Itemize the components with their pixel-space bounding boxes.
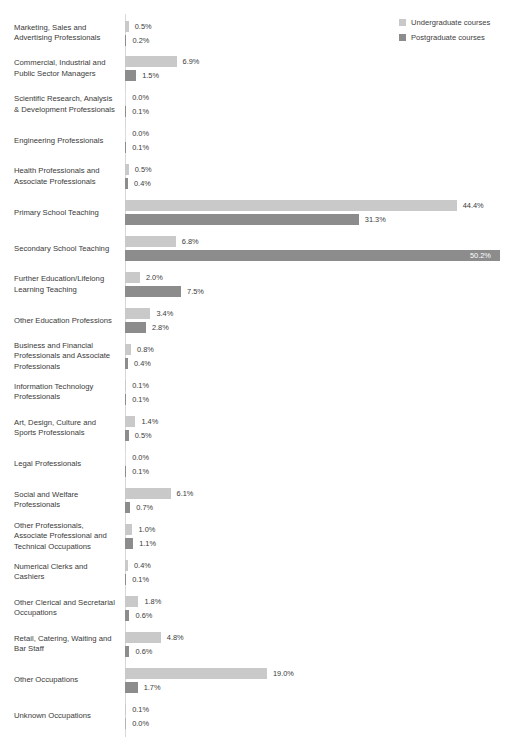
category-label: Engineering Professionals (14, 136, 118, 146)
bar-rect-undergraduate (125, 380, 126, 391)
bar-value-label: 7.5% (187, 287, 204, 296)
bar-rect-postgraduate (125, 466, 126, 477)
bar-value-label: 0.1% (132, 575, 149, 584)
bar-value-label: 0.0% (132, 453, 149, 462)
occupation-destinations-bar-chart: Marketing, Sales and Advertising Profess… (0, 0, 508, 749)
category-label: Other Education Professions (14, 316, 118, 326)
bar-rect-undergraduate (125, 488, 171, 499)
bar-value-label: 0.2% (132, 36, 149, 45)
bar-value-label: 1.4% (141, 417, 158, 426)
bar-value-label: 0.4% (134, 561, 151, 570)
bar-value-label: 0.0% (132, 719, 149, 728)
bar-row: Primary School Teaching44.4%31.3% (0, 199, 508, 227)
bar-rect-undergraduate (125, 524, 132, 535)
bar-value-label: 1.8% (144, 597, 161, 606)
bar-value-label: 0.1% (132, 467, 149, 476)
bar-rect-undergraduate (125, 92, 126, 103)
category-label: Other Clerical and Secretarial Occupatio… (14, 598, 118, 619)
bar-value-label: 0.6% (135, 647, 152, 656)
bar-value-label: 1.1% (139, 539, 156, 548)
bar-value-label: 0.1% (132, 705, 149, 714)
bar-rect-undergraduate (125, 704, 126, 715)
bar-value-label: 0.6% (135, 611, 152, 620)
bar-row: Retail, Catering, Waiting and Bar Staff4… (0, 630, 508, 658)
bar-value-label: 0.0% (132, 93, 149, 102)
bar-value-label: 31.3% (365, 215, 386, 224)
category-label: Other Occupations (14, 675, 118, 685)
bar-rect-undergraduate (125, 668, 267, 679)
bar-value-label: 6.8% (182, 237, 199, 246)
bar-value-label: 0.1% (132, 143, 149, 152)
legend-item-undergraduate: Undergraduate courses (399, 16, 490, 29)
bar-value-label: 0.1% (132, 395, 149, 404)
bar-row: Information Technology Professionals0.1%… (0, 379, 508, 407)
bar-rect-undergraduate (125, 344, 131, 355)
chart-legend: Undergraduate courses Postgraduate cours… (399, 16, 490, 46)
bar-rect-postgraduate (125, 214, 359, 225)
category-label: Marketing, Sales and Advertising Profess… (14, 23, 118, 44)
legend-label-undergraduate: Undergraduate courses (411, 19, 490, 27)
category-label: Legal Professionals (14, 459, 118, 469)
category-label: Secondary School Teaching (14, 244, 118, 254)
bar-row: Other Professionals, Associate Professio… (0, 522, 508, 550)
bar-row: Scientific Research, Analysis & Developm… (0, 91, 508, 119)
category-label: Further Education/Lifelong Learning Teac… (14, 274, 118, 295)
legend-swatch-undergraduate-icon (399, 19, 406, 26)
bar-value-label: 0.4% (134, 179, 151, 188)
category-label: Art, Design, Culture and Sports Professi… (14, 418, 118, 439)
category-label: Unknown Occupations (14, 711, 118, 721)
bar-value-label: 0.7% (136, 503, 153, 512)
bar-rect-undergraduate (125, 416, 135, 427)
legend-swatch-postgraduate-icon (399, 34, 406, 41)
bar-row: Social and Welfare Professionals6.1%0.7% (0, 486, 508, 514)
bar-value-label: 0.5% (135, 431, 152, 440)
bar-value-label: 0.1% (132, 381, 149, 390)
category-label: Other Professionals, Associate Professio… (14, 521, 118, 552)
bar-rect-undergraduate (125, 56, 177, 67)
bar-rect-postgraduate (125, 178, 128, 189)
plot-area: Marketing, Sales and Advertising Profess… (0, 0, 508, 749)
bar-value-label: 0.0% (132, 129, 149, 138)
bar-value-label: 6.1% (177, 489, 194, 498)
bar-row: Art, Design, Culture and Sports Professi… (0, 414, 508, 442)
category-label: Health Professionals and Associate Profe… (14, 166, 118, 187)
bar-row: Legal Professionals0.0%0.1% (0, 450, 508, 478)
category-label: Social and Welfare Professionals (14, 490, 118, 511)
bar-row: Numerical Clerks and Cashiers0.4%0.1% (0, 558, 508, 586)
bar-rect-undergraduate (125, 560, 128, 571)
category-label: Business and Financial Professionals and… (14, 341, 118, 372)
bar-rect-postgraduate (125, 502, 130, 513)
bar-rect-postgraduate (125, 250, 500, 261)
bar-rect-undergraduate (125, 21, 129, 32)
bar-value-label: 1.0% (138, 525, 155, 534)
category-label: Numerical Clerks and Cashiers (14, 562, 118, 583)
bar-rect-postgraduate (125, 682, 138, 693)
bar-row: Unknown Occupations0.1%0.0% (0, 702, 508, 730)
bar-value-label: 0.8% (137, 345, 154, 354)
bar-value-label: 19.0% (273, 669, 294, 678)
bar-value-label: 3.4% (156, 309, 173, 318)
bar-rect-postgraduate (125, 394, 126, 405)
bar-rect-postgraduate (125, 286, 181, 297)
bar-rect-undergraduate (125, 308, 150, 319)
bar-value-label: 0.1% (132, 107, 149, 116)
bar-rect-postgraduate (125, 70, 136, 81)
bar-value-label: 1.5% (142, 71, 159, 80)
legend-item-postgraduate: Postgraduate courses (399, 31, 490, 44)
category-label: Scientific Research, Analysis & Developm… (14, 94, 118, 115)
bar-value-label: 2.0% (146, 273, 163, 282)
bar-value-label: 6.9% (183, 57, 200, 66)
bar-row: Engineering Professionals0.0%0.1% (0, 127, 508, 155)
bar-row: Commercial, Industrial and Public Sector… (0, 55, 508, 83)
legend-label-postgraduate: Postgraduate courses (411, 34, 485, 42)
bar-rect-undergraduate (125, 164, 129, 175)
bar-value-label: 0.4% (134, 359, 151, 368)
bar-rect-postgraduate (125, 322, 146, 333)
bar-row: Further Education/Lifelong Learning Teac… (0, 271, 508, 299)
category-label: Information Technology Professionals (14, 382, 118, 403)
bar-rect-postgraduate (125, 574, 126, 585)
bar-rect-postgraduate (125, 646, 129, 657)
bar-value-label: 0.5% (135, 165, 152, 174)
bar-rect-undergraduate (125, 596, 138, 607)
bar-rect-undergraduate (125, 200, 457, 211)
